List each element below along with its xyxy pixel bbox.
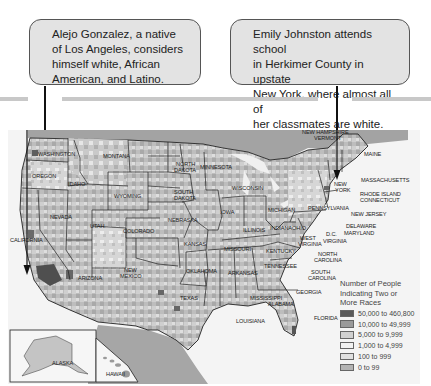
- leader-line-top-right: [336, 86, 338, 130]
- divider: [62, 97, 318, 101]
- label-colorado: COLORADO: [123, 228, 155, 234]
- dallas-county: [158, 290, 164, 295]
- label-alaska: ALASKA: [52, 360, 74, 366]
- label-south-carolina-2: CAROLINA: [308, 275, 336, 281]
- label-dc: D.C.: [326, 231, 337, 237]
- label-iowa: IOWA: [220, 209, 235, 215]
- label-illinois: ILLINOIS: [243, 227, 266, 233]
- label-montana: MONTANA: [103, 153, 130, 159]
- label-wisconsin: WISCONSIN: [232, 185, 263, 191]
- label-hawaii: HAWAII: [106, 371, 125, 377]
- legend-item: 0 to 99: [340, 362, 430, 372]
- legend-item: 10,000 to 49,999: [340, 319, 430, 329]
- legend-title-line: Number of People: [340, 279, 430, 289]
- label-arizona: ARIZONA: [78, 275, 103, 281]
- legend-title-line: More Races: [340, 298, 430, 308]
- label-utah: UTAH: [90, 223, 104, 229]
- label-nevada: NEVADA: [50, 214, 72, 220]
- label-alabama: ALABAMA: [268, 301, 294, 307]
- map-legend: Number of People Indicating Two or More …: [340, 279, 430, 372]
- region-nm: [92, 226, 126, 268]
- callout-line: in Herkimer County in upstate: [253, 57, 399, 87]
- legend-item: 50,000 to 460,800: [340, 308, 430, 318]
- label-wyoming: WYOMING: [114, 193, 141, 199]
- label-ohio: OHIO: [292, 225, 307, 231]
- label-new-hampshire: NEW HAMPSHIRE: [302, 130, 349, 135]
- legend-swatch: [340, 342, 354, 350]
- leader-line-top-left: [44, 86, 46, 130]
- legend-label: 0 to 99: [358, 364, 379, 371]
- legend-item: 100 to 999: [340, 351, 430, 361]
- label-louisiana: LOUISIANA: [236, 318, 265, 324]
- legend-label: 50,000 to 460,800: [358, 310, 414, 317]
- label-oklahoma: OKLAHOMA: [186, 268, 217, 274]
- label-maryland: MARYLAND: [344, 230, 374, 236]
- label-michigan: MICHIGAN: [268, 207, 295, 213]
- legend-title-line: Indicating Two or: [340, 289, 430, 299]
- callout-emily-johnston: Emily Johnston attends school in Herkime…: [230, 19, 410, 85]
- label-north-carolina-2: CAROLINA: [314, 257, 342, 263]
- label-new-jersey: NEW JERSEY: [351, 211, 387, 217]
- legend-item: 5,000 to 9,999: [340, 330, 430, 340]
- callout-line: Alejo Gonzalez, a native: [52, 27, 190, 42]
- label-arkansas: ARKANSAS: [228, 270, 258, 276]
- legend-swatch: [340, 353, 354, 361]
- label-idaho: IDAHO: [68, 181, 86, 187]
- callout-line: himself white, African: [52, 57, 190, 72]
- legend-swatch: [340, 320, 354, 328]
- label-florida: FLORIDA: [314, 315, 338, 321]
- legend-swatch: [340, 331, 354, 339]
- label-west-virginia-2: VIRGINIA: [298, 241, 322, 247]
- label-missouri: MISSOURI: [224, 246, 251, 252]
- callout-line: New York, where almost all of: [253, 87, 399, 117]
- callout-line: Emily Johnston attends school: [253, 27, 399, 57]
- label-massachusetts: MASSACHUSETTS: [361, 177, 410, 183]
- legend-label: 100 to 999: [358, 353, 391, 360]
- legend-item: 1,000 to 4,999: [340, 341, 430, 351]
- nyc-county: [324, 186, 329, 190]
- label-north-dakota-2: DAKOTA: [174, 167, 196, 173]
- callout-alejo-gonzalez: Alejo Gonzalez, a native of Los Angeles,…: [29, 19, 201, 85]
- houston-county: [174, 306, 180, 311]
- divider: [0, 97, 28, 101]
- legend-label: 1,000 to 4,999: [358, 342, 403, 349]
- label-nebraska: NEBRASKA: [168, 217, 198, 223]
- label-tennessee: TENNESSEE: [264, 263, 297, 269]
- label-rhode-island: RHODE ISLAND: [360, 191, 401, 197]
- legend-label: 10,000 to 49,999: [358, 321, 411, 328]
- label-delaware: DELAWARE: [346, 223, 377, 229]
- label-vermont: VERMONT: [314, 135, 342, 141]
- label-georgia: GEORGIA: [296, 289, 322, 295]
- label-connecticut: CONNECTICUT: [360, 197, 400, 203]
- label-south-dakota-2: DAKOTA: [174, 195, 196, 201]
- label-kentucky: KENTUCKY: [266, 248, 296, 254]
- callout-line: American, and Latino.: [52, 72, 190, 87]
- label-washington: WASHINGTON: [38, 151, 75, 157]
- legend-swatch: [340, 310, 354, 318]
- divider: [352, 97, 431, 101]
- label-oregon: OREGON: [32, 173, 56, 179]
- legend-swatch: [340, 364, 354, 372]
- label-texas: TEXAS: [180, 295, 198, 301]
- label-pennsylvania: PENNSYLVANIA: [308, 205, 349, 211]
- label-kansas: KANSAS: [184, 241, 206, 247]
- label-minnesota: MINNESOTA: [200, 164, 232, 170]
- label-new-mexico-2: MEXICO: [120, 273, 142, 279]
- label-virginia: VIRGINIA: [323, 238, 347, 244]
- legend-label: 5,000 to 9,999: [358, 331, 403, 338]
- label-new-york-2: YORK: [335, 187, 351, 193]
- label-indiana: INDIANA: [270, 225, 292, 231]
- miami-county: [292, 326, 296, 334]
- label-maine: MAINE: [364, 151, 382, 157]
- callout-line: of Los Angeles, considers: [52, 42, 190, 57]
